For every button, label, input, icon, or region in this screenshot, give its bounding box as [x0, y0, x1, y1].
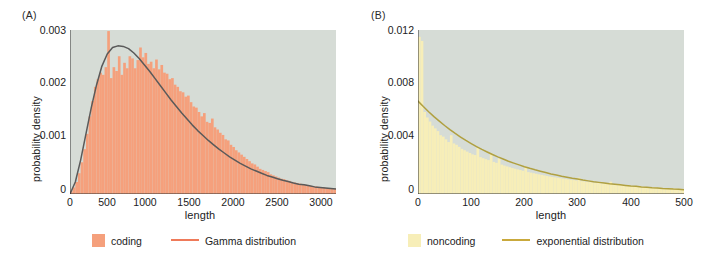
- panel-a-legend-hist-label: coding: [111, 235, 142, 247]
- panel-a-xtick-4: 2000: [217, 196, 249, 208]
- panel-b-tag: (B): [371, 9, 386, 21]
- panel-a-legend-curve: Gamma distribution: [171, 235, 296, 247]
- panel-a-ytick-2: 0.002: [24, 76, 66, 88]
- panel-b-xtick-3: 300: [563, 196, 591, 208]
- panel-b-legend: noncoding exponential distribution: [408, 234, 644, 247]
- panel-a-xtick-6: 3000: [305, 196, 337, 208]
- panel-b-xtick-0: 0: [408, 196, 428, 208]
- panel-a-x-axis-label: length: [140, 209, 260, 221]
- panel-b-x-axis-label: length: [491, 209, 611, 221]
- panel-a-legend-hist: coding: [92, 234, 142, 247]
- panel-a-legend-curve-label: Gamma distribution: [205, 235, 296, 247]
- panel-b-legend-hist: noncoding: [408, 234, 475, 247]
- panel-a-xtick-2: 1000: [129, 196, 161, 208]
- panel-b-legend-curve: exponential distribution: [502, 235, 643, 247]
- panel-b-legend-curve-label: exponential distribution: [536, 235, 643, 247]
- panel-b-xtick-4: 400: [617, 196, 645, 208]
- panel-b-legend-hist-label: noncoding: [427, 235, 475, 247]
- panel-b-ytick-3: 0.012: [370, 24, 414, 36]
- panel-b-xtick-5: 500: [670, 196, 698, 208]
- panel-a-ytick-1: 0.001: [24, 129, 66, 141]
- noncoding-color-swatch: [408, 234, 421, 247]
- coding-color-swatch: [92, 234, 105, 247]
- panel-b: (B) probability density 0.012 0.008 0.00…: [356, 0, 712, 267]
- panel-a-legend: coding Gamma distribution: [92, 234, 296, 247]
- panel-a-xtick-0: 0: [60, 196, 80, 208]
- gamma-curve-line-key: [171, 239, 199, 241]
- figure-root: (A) probability density 0.003 0.002 0.00…: [0, 0, 713, 267]
- panel-b-xtick-1: 100: [457, 196, 485, 208]
- panel-a-tag: (A): [22, 9, 37, 21]
- panel-b-ytick-0: 0: [370, 183, 414, 195]
- panel-b-plot-area: [418, 30, 684, 194]
- panel-a-xtick-5: 2500: [261, 196, 293, 208]
- panel-a: (A) probability density 0.003 0.002 0.00…: [0, 0, 356, 267]
- panel-b-ytick-1: 0.004: [370, 129, 414, 141]
- panel-b-ytick-2: 0.008: [370, 76, 414, 88]
- exponential-curve-line-key: [502, 239, 530, 241]
- panel-a-plot-area: [70, 30, 336, 194]
- panel-b-xtick-2: 200: [510, 196, 538, 208]
- panel-a-ytick-0: 0: [24, 183, 66, 195]
- panel-a-xtick-1: 500: [93, 196, 121, 208]
- panel-a-xtick-3: 1500: [173, 196, 205, 208]
- panel-a-ytick-3: 0.003: [24, 24, 66, 36]
